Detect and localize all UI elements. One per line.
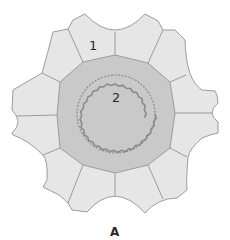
label-2: 2 [112,91,120,104]
figure-caption: A [110,226,119,238]
central-core [57,55,175,173]
label-1: 1 [89,39,97,52]
cross-section-diagram [0,0,230,240]
